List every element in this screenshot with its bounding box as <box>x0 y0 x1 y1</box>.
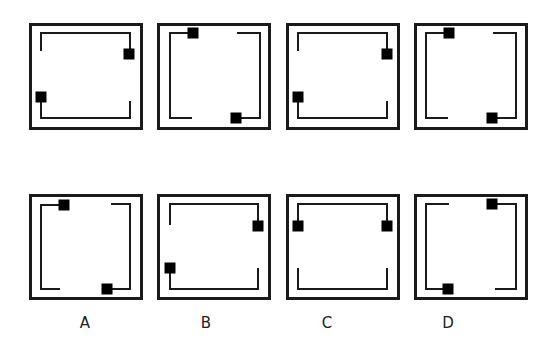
bracket-line <box>492 204 516 289</box>
bracket-line <box>492 33 516 118</box>
square-marker-icon <box>382 221 393 232</box>
question-figure-1 <box>31 25 142 129</box>
bracket-line <box>298 33 387 54</box>
square-marker-icon <box>443 284 454 295</box>
bracket-line <box>170 268 258 289</box>
bracket-line <box>41 205 64 289</box>
bracket-line <box>170 204 258 226</box>
square-marker-icon <box>487 199 498 210</box>
outer-frame <box>159 25 270 129</box>
option-figure-d[interactable] <box>416 196 527 299</box>
square-marker-icon <box>36 92 47 103</box>
outer-frame <box>416 196 527 299</box>
square-marker-icon <box>487 113 498 124</box>
question-figure-3 <box>288 25 399 129</box>
option-label-d[interactable]: D <box>433 314 463 332</box>
bracket-line <box>41 33 130 54</box>
square-marker-icon <box>231 113 242 124</box>
outer-frame <box>31 25 142 129</box>
bracket-line <box>298 268 387 289</box>
bracket-line <box>41 97 130 118</box>
bracket-line <box>298 97 387 118</box>
option-figure-a[interactable] <box>31 196 142 299</box>
question-figure-2 <box>159 25 270 129</box>
bracket-line <box>107 204 130 289</box>
option-figure-b[interactable] <box>159 196 270 299</box>
bracket-line <box>426 33 449 118</box>
outer-frame <box>416 25 527 129</box>
square-marker-icon <box>444 28 455 39</box>
question-figure-4 <box>416 25 527 129</box>
outer-frame <box>159 196 270 299</box>
square-marker-icon <box>253 221 264 232</box>
square-marker-icon <box>382 49 393 60</box>
puzzle-canvas <box>0 0 555 352</box>
square-marker-icon <box>59 200 70 211</box>
bracket-line <box>236 33 260 118</box>
square-marker-icon <box>293 92 304 103</box>
outer-frame <box>31 196 142 299</box>
square-marker-icon <box>293 221 304 232</box>
square-marker-icon <box>102 284 113 295</box>
option-label-b[interactable]: B <box>191 314 221 332</box>
bracket-line <box>298 204 387 226</box>
square-marker-icon <box>124 49 135 60</box>
option-label-a[interactable]: A <box>70 314 100 332</box>
outer-frame <box>288 25 399 129</box>
square-marker-icon <box>188 28 199 39</box>
option-figure-c[interactable] <box>288 196 399 299</box>
bracket-line <box>170 33 193 118</box>
bracket-line <box>426 204 449 289</box>
square-marker-icon <box>165 263 176 274</box>
outer-frame <box>288 196 399 299</box>
option-label-c[interactable]: C <box>312 314 342 332</box>
